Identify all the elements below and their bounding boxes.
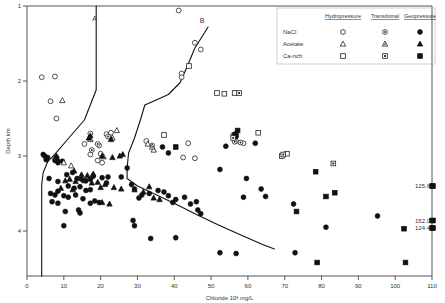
svg-text:124.4: 124.4 [415, 225, 431, 231]
svg-text:Hydropressure: Hydropressure [325, 13, 361, 19]
x-tick-labels: 0102030405060708090100110 [25, 283, 437, 289]
svg-text:90: 90 [355, 283, 362, 289]
svg-text:100: 100 [390, 283, 401, 289]
svg-text:Acetate: Acetate [283, 41, 304, 47]
svg-text:B: B [200, 17, 205, 24]
svg-text:70: 70 [281, 283, 288, 289]
svg-text:2: 2 [18, 78, 22, 84]
svg-text:80: 80 [318, 283, 325, 289]
svg-text:3: 3 [18, 153, 22, 159]
svg-text:Geopressure: Geopressure [404, 13, 436, 19]
svg-text:20: 20 [97, 283, 104, 289]
x-axis-title: Chloride 10³ mg/L [206, 295, 254, 301]
scatter-plot-svg: 0102030405060708090100110 1234 AB 125.61… [0, 0, 445, 303]
svg-text:110: 110 [427, 283, 437, 289]
legend: HydropressureTransitionalGeopressureNaCl… [277, 8, 436, 64]
svg-text:125.6: 125.6 [415, 183, 431, 189]
chart-figure: 0102030405060708090100110 1234 AB 125.61… [0, 0, 445, 303]
series-group [39, 8, 246, 165]
series-group [231, 91, 336, 166]
svg-text:50: 50 [208, 283, 215, 289]
svg-text:NaCl: NaCl [283, 29, 296, 35]
svg-text:10: 10 [60, 283, 67, 289]
y-axis-title: Depth km [5, 128, 11, 154]
y-tick-labels: 1234 [18, 3, 22, 234]
data-points [39, 8, 434, 265]
svg-text:Transitional: Transitional [371, 13, 399, 19]
svg-text:30: 30 [134, 283, 141, 289]
svg-text:1: 1 [18, 3, 22, 9]
svg-text:152.0: 152.0 [415, 218, 431, 224]
svg-text:A: A [92, 15, 97, 22]
svg-text:60: 60 [245, 283, 252, 289]
svg-text:40: 40 [171, 283, 178, 289]
svg-text:Ca-rich: Ca-rich [283, 53, 302, 59]
svg-text:4: 4 [18, 228, 22, 234]
series-group [173, 128, 434, 265]
svg-text:0: 0 [25, 283, 29, 289]
